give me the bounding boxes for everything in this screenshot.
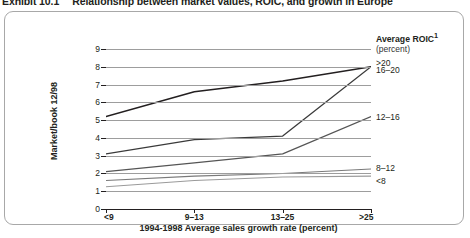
y-axis-tick-label: 0 — [91, 205, 100, 213]
legend-key: <8 — [376, 177, 386, 185]
exhibit-title-text: Relationship between market values, ROIC… — [72, 0, 393, 7]
y-axis-tick — [101, 85, 106, 86]
legend-key: 12–16 — [376, 113, 400, 121]
x-axis-tick-label: 9–13 — [185, 212, 204, 222]
y-axis-tick-label: 9 — [91, 45, 100, 53]
exhibit-title: Exhibit 10.1Relationship between market … — [2, 0, 468, 9]
series-line — [106, 67, 371, 154]
gridline — [106, 138, 371, 139]
y-axis-tick — [101, 102, 106, 103]
legend: Average ROIC1 (percent) — [376, 31, 464, 54]
y-axis-tick — [101, 156, 106, 157]
legend-title: Average ROIC1 — [376, 31, 464, 44]
gridline — [106, 102, 371, 103]
y-axis-tick — [101, 67, 106, 68]
y-axis-tick-label: 5 — [91, 116, 100, 124]
y-axis-tick-label: 3 — [91, 152, 100, 160]
plot-area — [106, 49, 371, 209]
gridline — [106, 120, 371, 121]
legend-title-superscript: 1 — [434, 31, 438, 40]
y-axis-tick — [101, 49, 106, 50]
legend-key: 16–20 — [376, 66, 400, 74]
x-axis-title: 1994-1998 Average sales growth rate (per… — [106, 223, 371, 233]
legend-subtitle: (percent) — [376, 44, 464, 54]
y-axis-tick-label: 1 — [91, 187, 100, 195]
y-axis-tick-label: 6 — [91, 98, 100, 106]
gridline — [106, 156, 371, 157]
gridline — [106, 49, 371, 50]
exhibit-number: Exhibit 10.1 — [2, 0, 59, 7]
x-axis-tick-label: >25 — [359, 212, 373, 222]
gridline — [106, 191, 371, 192]
legend-key: 8–12 — [376, 164, 395, 172]
series-line — [106, 176, 371, 187]
x-axis-tick-label: <9 — [104, 212, 114, 222]
gridline — [106, 173, 371, 174]
gridline — [106, 85, 371, 86]
y-axis-tick-label: 7 — [91, 81, 100, 89]
series-line — [106, 67, 371, 117]
y-axis-tick-label: 2 — [91, 169, 100, 177]
y-axis-tick-label: 4 — [91, 134, 100, 142]
y-axis-tick — [101, 138, 106, 139]
y-axis-title: Market/book 12/98 — [49, 66, 59, 176]
series-line — [106, 117, 371, 172]
y-axis-tick — [101, 173, 106, 174]
y-axis-tick — [101, 120, 106, 121]
series-layer — [106, 49, 371, 209]
x-axis-tick-label: 13–25 — [271, 212, 295, 222]
legend-title-text: Average ROIC — [376, 34, 434, 44]
gridline — [106, 67, 371, 68]
y-axis-tick-label: 8 — [91, 63, 100, 71]
y-axis-tick — [101, 191, 106, 192]
chart-panel: Market/book 12/98 0123456789 <99–1313–25… — [4, 11, 464, 225]
x-axis-line — [106, 209, 371, 210]
